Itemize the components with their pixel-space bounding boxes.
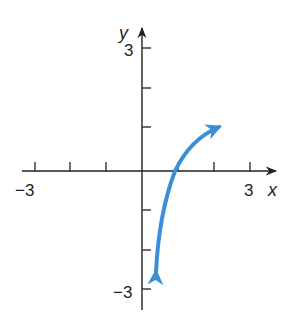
x-axis-label: x — [267, 180, 278, 200]
chart: y 3 −3 3 x −3 — [0, 0, 286, 314]
x-min-label: −3 — [15, 181, 34, 200]
y-axis-label: y — [117, 23, 129, 43]
curve — [156, 127, 219, 272]
y-max-label: 3 — [124, 41, 133, 60]
y-min-label: −3 — [113, 283, 132, 302]
y-ticks — [142, 48, 151, 289]
x-max-label: 3 — [244, 181, 253, 200]
